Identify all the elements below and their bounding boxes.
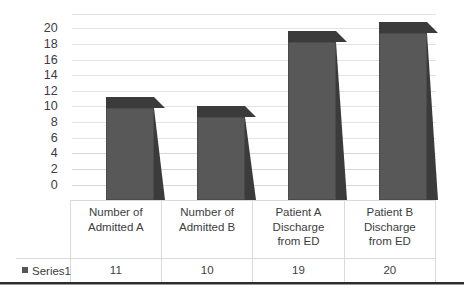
bar-side-face xyxy=(427,22,438,200)
category-label-line: Discharge xyxy=(255,220,341,235)
bar-front-face xyxy=(106,108,154,200)
bar-front-face xyxy=(379,33,427,200)
category-label-cell: Number of Admitted B xyxy=(162,201,253,259)
y-axis-tick-label: 14 xyxy=(44,69,58,82)
y-axis: 20 18 16 14 12 10 8 6 4 2 0 xyxy=(0,14,66,200)
y-axis-tick-label: 10 xyxy=(44,100,58,113)
category-label-line: Number of xyxy=(164,205,250,220)
value-cell: 19 xyxy=(253,259,344,284)
y-axis-tick-label: 18 xyxy=(44,38,58,51)
y-axis-tick-label: 20 xyxy=(44,22,58,35)
bar-column xyxy=(197,117,245,201)
category-label-line: from ED xyxy=(347,234,433,249)
y-axis-tick-label: 4 xyxy=(51,147,58,160)
y-axis-tick-label: 2 xyxy=(51,163,58,176)
bar-side-face xyxy=(245,106,256,200)
y-axis-tick-label: 0 xyxy=(51,178,58,191)
legend-series-label: Series1 xyxy=(32,264,71,276)
bar-column xyxy=(379,33,427,200)
bar-column xyxy=(106,108,154,200)
category-label-line: Admitted A xyxy=(73,220,159,235)
bottom-divider-shadow xyxy=(0,284,464,285)
bar-side-face xyxy=(336,31,347,200)
category-label-line: Admitted B xyxy=(164,220,250,235)
legend-entry: Series1 xyxy=(16,259,70,284)
plot-area xyxy=(72,14,436,200)
value-cell: 11 xyxy=(70,259,161,284)
category-label-line: Discharge xyxy=(347,220,433,235)
bar-column xyxy=(288,42,336,201)
y-axis-tick-label: 16 xyxy=(44,53,58,66)
bar-side-face xyxy=(154,97,165,200)
category-label-line: from ED xyxy=(255,234,341,249)
category-label-line: Number of xyxy=(73,205,159,220)
category-label-line: Patient A xyxy=(255,205,341,220)
data-table: Number of Admitted A Number of Admitted … xyxy=(16,200,436,284)
value-cell: 10 xyxy=(162,259,253,284)
category-label-cell: Patient B Discharge from ED xyxy=(344,201,435,259)
bar-front-face xyxy=(197,117,245,201)
value-cell: 20 xyxy=(344,259,435,284)
legend-swatch-icon xyxy=(22,267,28,273)
table-row-values: Series1 11 10 19 20 xyxy=(16,259,436,284)
bar-front-face xyxy=(288,42,336,201)
table-row-categories: Number of Admitted A Number of Admitted … xyxy=(16,201,436,259)
table-corner-cell xyxy=(16,201,70,259)
y-axis-tick-label: 6 xyxy=(51,131,58,144)
y-axis-tick-label: 8 xyxy=(51,116,58,129)
category-label-line: Patient B xyxy=(347,205,433,220)
y-axis-tick-label: 12 xyxy=(44,85,58,98)
category-label-cell: Patient A Discharge from ED xyxy=(253,201,344,259)
gridline xyxy=(72,14,436,15)
category-label-cell: Number of Admitted A xyxy=(70,201,161,259)
chart-container: 20 18 16 14 12 10 8 6 4 2 0 xyxy=(0,0,464,297)
